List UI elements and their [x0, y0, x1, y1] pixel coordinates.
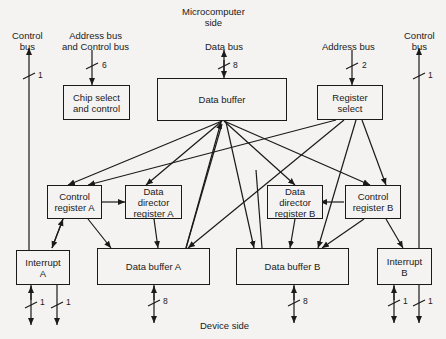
interrupt-b-block: Interrupt B: [377, 248, 432, 285]
device-side-label: Device side: [200, 320, 249, 331]
chip-select-block: Chip select and control: [63, 85, 130, 120]
control-bus-right-label: Control bus: [404, 30, 435, 52]
interrupt-b-line2-width: 1: [428, 296, 433, 306]
control-register-a-block: Control register A: [47, 185, 102, 219]
data-buffer-a-width: 8: [163, 296, 168, 306]
data-buffer-a-block: Data buffer A: [97, 248, 210, 285]
microcomputer-side-label: Microcomputer side: [182, 6, 245, 28]
data-buffer-b-width: 8: [303, 296, 308, 306]
ddr-b-block: Data director register B: [267, 185, 323, 219]
control-bus-right-width: 1: [428, 70, 433, 80]
control-bus-left-label: Control bus: [12, 30, 43, 52]
ddr-a-block: Data director register A: [125, 185, 182, 219]
data-bus-label: Data bus: [205, 41, 243, 52]
data-buffer-b-block: Data buffer B: [236, 248, 349, 285]
data-buffer-block: Data buffer: [157, 78, 287, 121]
interrupt-b-line1-width: 1: [403, 296, 408, 306]
interrupt-a-line1-width: 1: [40, 297, 45, 307]
control-bus-left-width: 1: [38, 70, 43, 80]
address-control-bus-label: Address bus and Control bus: [62, 30, 129, 52]
control-register-b-block: Control register B: [345, 185, 401, 219]
data-bus-width: 8: [233, 60, 238, 70]
address-control-bus-width: 6: [102, 60, 107, 70]
address-bus-label: Address bus: [322, 41, 375, 52]
interrupt-a-line2-width: 1: [66, 297, 71, 307]
address-bus-width: 2: [362, 60, 367, 70]
register-select-block: Register select: [317, 85, 383, 120]
interrupt-a-block: Interrupt A: [16, 250, 70, 285]
